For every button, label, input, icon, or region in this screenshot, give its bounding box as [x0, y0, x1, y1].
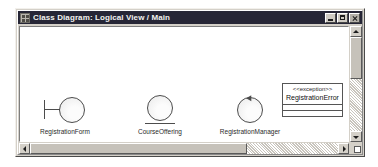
horizontal-scroll-track[interactable]	[30, 143, 338, 154]
window-controls	[325, 13, 361, 23]
boundary-connector	[44, 109, 60, 110]
node-stereotype-label: Control	[195, 139, 305, 142]
vertical-scroll-thumb[interactable]	[350, 37, 362, 79]
entity-base-line	[145, 123, 175, 124]
class-name-label: RegistrationError	[285, 93, 340, 102]
close-button[interactable]	[349, 13, 360, 23]
vertical-scrollbar[interactable]	[350, 26, 362, 142]
scroll-up-button[interactable]	[350, 26, 362, 37]
minimize-button[interactable]	[325, 13, 336, 23]
title-bar[interactable]: Class Diagram: Logical View / Main	[18, 11, 362, 24]
scroll-left-button[interactable]	[19, 143, 30, 154]
diagram-canvas[interactable]: RegistrationForm Boundary CourseOffering…	[20, 27, 348, 141]
horizontal-scrollbar[interactable]	[19, 143, 349, 154]
class-box-registration-error[interactable]: <<exception>> RegistrationError	[282, 83, 343, 117]
boundary-circle	[59, 97, 85, 123]
scroll-down-arrow-icon	[353, 136, 359, 139]
class-box-header: <<exception>> RegistrationError	[283, 84, 342, 104]
window-title: Class Diagram: Logical View / Main	[33, 12, 325, 23]
diagram-canvas-container[interactable]: RegistrationForm Boundary CourseOffering…	[19, 26, 349, 142]
class-diagram-icon	[20, 13, 30, 23]
entity-circle	[147, 95, 173, 121]
class-diagram-window[interactable]: Class Diagram: Logical View / Main Regis…	[15, 8, 365, 157]
resize-grip[interactable]	[351, 143, 362, 154]
horizontal-scroll-thumb[interactable]	[30, 143, 247, 154]
scroll-up-arrow-icon	[353, 30, 359, 33]
class-stereotype-label: <<exception>>	[285, 85, 340, 93]
node-name-label: RegistrationManager	[195, 127, 305, 136]
scroll-left-arrow-icon	[23, 146, 26, 152]
scroll-right-button[interactable]	[338, 143, 349, 154]
vertical-scroll-track[interactable]	[350, 37, 362, 131]
scroll-right-arrow-icon	[343, 146, 346, 152]
scroll-down-button[interactable]	[350, 131, 362, 142]
class-operations-compartment	[283, 111, 342, 116]
maximize-button[interactable]	[337, 13, 348, 23]
